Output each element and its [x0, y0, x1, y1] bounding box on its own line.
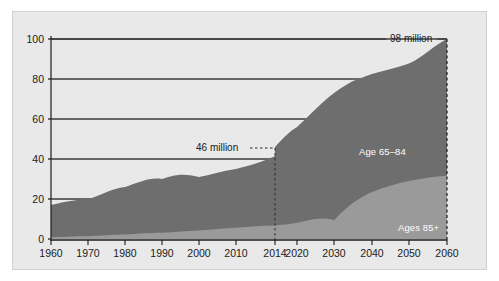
series-label-ages-85-plus: Ages 85+ [398, 222, 439, 233]
y-tick-label-60: 60 [10, 113, 44, 125]
y-tick-label-0: 0 [10, 233, 44, 245]
y-tick-label-100: 100 [10, 33, 44, 45]
x-tick-label-2010: 2010 [214, 247, 258, 259]
x-tick-label-2060: 2060 [425, 247, 469, 259]
y-tick-label-40: 40 [10, 153, 44, 165]
y-tick-label-20: 20 [10, 193, 44, 205]
y-tick-label-80: 80 [10, 73, 44, 85]
x-tick-marks [51, 240, 447, 245]
series-label-age-65-84: Age 65–84 [359, 146, 406, 157]
figure-container: 100 80 60 40 20 0 1960 1970 1980 1990 20… [0, 0, 499, 281]
annotation-98-million: 98 million [390, 33, 432, 44]
annotation-46-million: 46 million [196, 142, 238, 153]
